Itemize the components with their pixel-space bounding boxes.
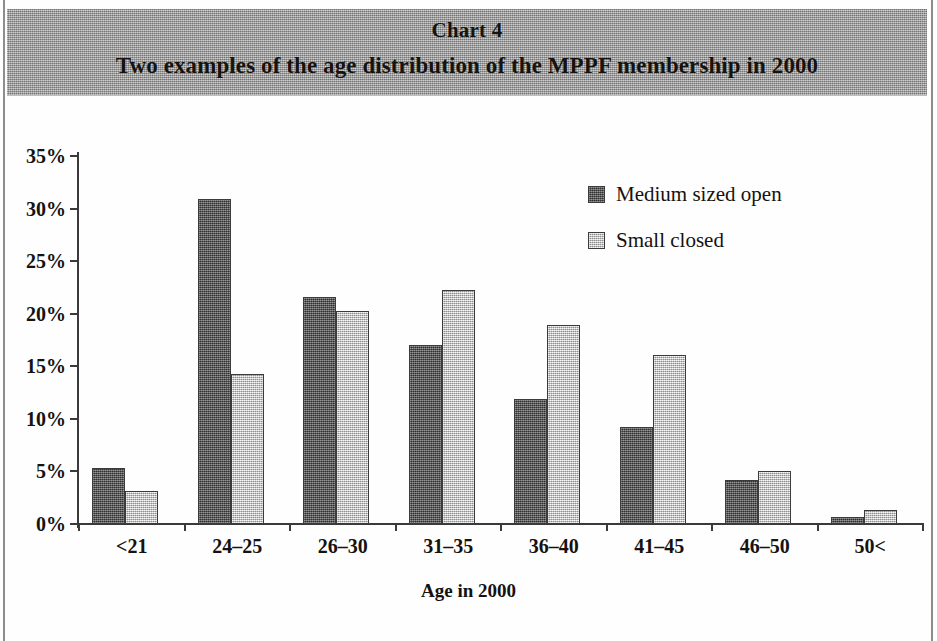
y-axis-tick (70, 155, 79, 157)
y-axis-tick (70, 260, 79, 262)
x-axis-tick (817, 523, 819, 531)
bar-medium-sized-open (409, 345, 442, 524)
x-axis-tick (78, 523, 80, 531)
chart-title-band: Chart 4 Two examples of the age distribu… (7, 9, 927, 96)
bar-medium-sized-open (514, 399, 547, 524)
bar-small-closed (547, 325, 580, 524)
y-axis-tick (70, 418, 79, 420)
y-axis-tick-label: 10% (4, 407, 66, 430)
bar-small-closed (231, 374, 264, 524)
x-axis-tick (289, 523, 291, 531)
x-axis-category-label: <21 (72, 535, 192, 558)
bar-medium-sized-open (303, 297, 336, 524)
x-axis-tick (606, 523, 608, 531)
chart-caption: Two examples of the age distribution of … (7, 53, 927, 79)
bar-small-closed (442, 290, 475, 524)
bar-medium-sized-open (92, 468, 125, 524)
y-axis-tick-label: 20% (4, 302, 66, 325)
y-axis-tick-label: 25% (4, 250, 66, 273)
x-axis-title: Age in 2000 (0, 580, 937, 602)
bar-series-layer (79, 156, 923, 524)
bar-small-closed (758, 471, 791, 524)
bar-small-closed (653, 355, 686, 524)
y-axis-tick-label: 15% (4, 355, 66, 378)
bar-small-closed (125, 491, 158, 524)
y-axis-tick (70, 470, 79, 472)
legend-swatch-small-closed (588, 232, 605, 249)
legend-swatch-medium-sized-open (588, 186, 605, 203)
y-axis-tick-label: 0% (4, 513, 66, 536)
legend-label: Medium sized open (616, 182, 782, 207)
x-axis-category-label: 41–45 (599, 535, 719, 558)
frame-border-right (931, 0, 933, 641)
x-axis-category-label: 36–40 (494, 535, 614, 558)
x-axis-category-label: 26–30 (283, 535, 403, 558)
y-axis-tick (70, 313, 79, 315)
chart-number: Chart 4 (7, 18, 927, 43)
x-axis-category-label: 50< (810, 535, 930, 558)
chart-figure: Chart 4 Two examples of the age distribu… (0, 0, 937, 641)
bar-medium-sized-open (620, 427, 653, 524)
x-axis-category-label: 31–35 (388, 535, 508, 558)
bar-small-closed (336, 311, 369, 524)
bar-small-closed (864, 510, 897, 524)
y-axis-tick-label: 30% (4, 197, 66, 220)
bar-medium-sized-open (831, 517, 864, 524)
y-axis-tick-label: 5% (4, 460, 66, 483)
y-axis-tick-label: 35% (4, 145, 66, 168)
bar-medium-sized-open (725, 480, 758, 524)
x-axis-tick (711, 523, 713, 531)
y-axis-tick (70, 208, 79, 210)
y-axis-tick (70, 365, 79, 367)
x-axis-category-label: 46–50 (705, 535, 825, 558)
x-axis-tick (500, 523, 502, 531)
bar-medium-sized-open (198, 199, 231, 524)
x-axis-tick (184, 523, 186, 531)
x-axis-tick (922, 523, 924, 531)
x-axis-category-label: 24–25 (177, 535, 297, 558)
x-axis-tick (395, 523, 397, 531)
legend-label: Small closed (616, 228, 724, 253)
